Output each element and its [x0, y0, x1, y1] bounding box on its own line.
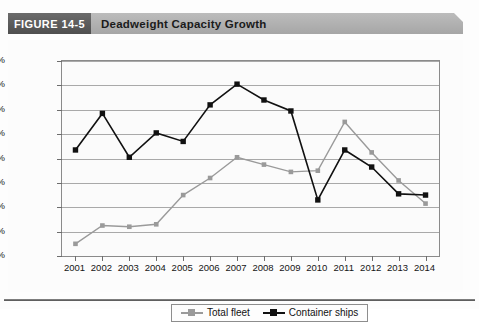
legend-label-total-fleet: Total fleet: [207, 307, 250, 318]
data-point-marker: [235, 155, 240, 160]
chart-area: 0%2%4%6%8%10%12%14%16% 20012002200320042…: [8, 40, 463, 292]
figure-header-band: FIGURE 14-5 Deadweight Capacity Growth: [8, 13, 463, 34]
figure-title: Deadweight Capacity Growth: [91, 13, 463, 34]
chart-legend: Total fleet Container ships: [171, 304, 368, 322]
y-axis-tick-label: 4%: [0, 200, 5, 211]
x-axis-tick-mark: [345, 256, 346, 261]
x-axis-tick-label: 2014: [408, 262, 442, 273]
y-axis-tick-label: 16%: [0, 54, 5, 65]
x-axis-tick-mark: [372, 256, 373, 261]
x-axis-tick-mark: [183, 256, 184, 261]
legend-item-total-fleet: Total fleet: [181, 307, 250, 318]
data-point-marker: [127, 155, 132, 160]
data-point-marker: [180, 139, 185, 144]
y-axis-tick-label: 12%: [0, 103, 5, 114]
y-axis-tick-label: 10%: [0, 127, 5, 138]
data-point-marker: [342, 147, 347, 152]
y-axis-tick-label: 2%: [0, 225, 5, 236]
data-point-marker: [369, 150, 374, 155]
series-lines: [62, 61, 439, 256]
y-axis-tick-label: 0%: [0, 249, 5, 260]
page-divider-rule: [4, 299, 475, 301]
figure-number-label: FIGURE 14-5: [8, 13, 91, 34]
x-axis-tick-mark: [237, 256, 238, 261]
data-point-marker: [73, 242, 78, 247]
data-point-marker: [154, 130, 159, 135]
y-axis-tick-mark: [57, 256, 62, 257]
y-axis-tick-label: 14%: [0, 78, 5, 89]
x-axis-tick-mark: [156, 256, 157, 261]
data-point-marker: [208, 176, 213, 181]
x-axis-tick-mark: [426, 256, 427, 261]
x-axis-tick-mark: [75, 256, 76, 261]
x-axis-tick-mark: [102, 256, 103, 261]
data-point-marker: [342, 120, 347, 125]
legend-swatch-container-ships: [263, 312, 285, 314]
y-axis-tick-label: 8%: [0, 152, 5, 163]
data-point-marker: [262, 162, 267, 167]
x-axis-tick-mark: [129, 256, 130, 261]
data-point-marker: [288, 108, 293, 113]
legend-label-container-ships: Container ships: [289, 307, 358, 318]
data-point-marker: [100, 111, 105, 116]
x-axis-tick-mark: [318, 256, 319, 261]
plot-area: [61, 60, 440, 257]
data-point-marker: [423, 201, 428, 206]
data-point-marker: [100, 223, 105, 228]
data-point-marker: [261, 97, 266, 102]
data-point-marker: [289, 170, 294, 175]
data-point-marker: [396, 191, 401, 196]
data-point-marker: [127, 224, 132, 229]
data-point-marker: [73, 147, 78, 152]
data-point-marker: [154, 222, 159, 227]
y-axis-tick-label: 6%: [0, 176, 5, 187]
x-axis-tick-mark: [210, 256, 211, 261]
data-point-marker: [315, 197, 320, 202]
x-axis-tick-mark: [264, 256, 265, 261]
data-point-marker: [234, 81, 239, 86]
series-line-container-ships: [75, 84, 425, 200]
data-point-marker: [369, 164, 374, 169]
legend-item-container-ships: Container ships: [263, 307, 358, 318]
data-point-marker: [396, 178, 401, 183]
x-axis-tick-mark: [291, 256, 292, 261]
data-point-marker: [181, 193, 186, 198]
legend-swatch-total-fleet: [181, 312, 203, 314]
x-axis-tick-mark: [399, 256, 400, 261]
data-point-marker: [316, 168, 321, 173]
data-point-marker: [207, 102, 212, 107]
data-point-marker: [423, 192, 428, 197]
